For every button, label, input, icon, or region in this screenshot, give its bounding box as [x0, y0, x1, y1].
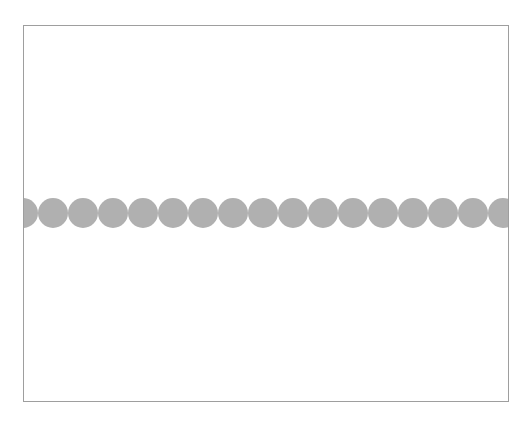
circle-dot — [248, 198, 278, 228]
circle-dot — [368, 198, 398, 228]
dot-row — [24, 26, 508, 401]
circle-dot — [278, 198, 308, 228]
circle-dot — [23, 198, 38, 228]
circle-dot — [158, 198, 188, 228]
circle-dot — [308, 198, 338, 228]
circle-dot — [458, 198, 488, 228]
circle-dot — [428, 198, 458, 228]
circle-dot — [128, 198, 158, 228]
bordered-canvas — [23, 25, 509, 402]
circle-dot — [98, 198, 128, 228]
circle-dot — [38, 198, 68, 228]
circle-dot — [68, 198, 98, 228]
circle-dot — [398, 198, 428, 228]
circle-dot — [218, 198, 248, 228]
circle-dot — [188, 198, 218, 228]
circle-dot — [338, 198, 368, 228]
circle-dot — [488, 198, 509, 228]
